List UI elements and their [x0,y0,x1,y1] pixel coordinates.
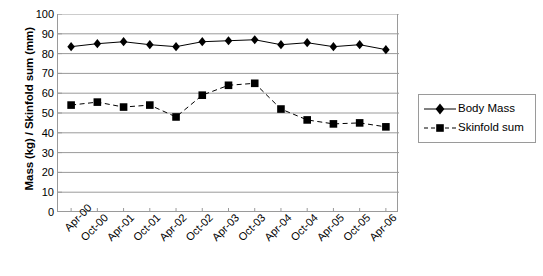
data-point-marker [303,116,311,124]
y-tick-label: 70 [24,68,54,79]
legend-label-body-mass: Body Mass [458,103,515,115]
data-point-marker [277,105,285,113]
data-point-marker [198,91,206,99]
data-point-marker [94,98,102,106]
data-point-marker [356,119,364,127]
data-point-marker [172,42,180,51]
data-point-marker [382,123,390,131]
plot-svg [58,14,399,212]
data-point-marker [120,37,128,46]
data-point-marker [146,40,154,49]
data-point-marker [198,37,206,46]
data-point-marker [120,103,128,111]
y-tick-label: 50 [24,108,54,119]
series-line-2 [71,83,386,127]
legend-key-solid-diamond-icon [422,101,458,117]
y-tick-label: 0 [24,207,54,218]
data-point-marker [225,81,233,89]
y-tick-label: 10 [24,187,54,198]
legend-item-skinfold-sum: Skinfold sum [422,118,532,137]
data-point-marker [277,40,285,49]
data-point-marker [67,42,75,51]
data-point-marker [172,113,180,121]
chart-container: Mass (kg) / Skinfold sum (mm) 1009080706… [0,0,543,276]
data-point-marker [94,39,102,48]
data-point-marker [303,38,311,47]
y-tick-label: 20 [24,167,54,178]
y-axis-tick-labels: 1009080706050403020100 [22,0,54,276]
y-tick-label: 100 [24,9,54,20]
y-tick-label: 90 [24,28,54,39]
x-axis-tick-labels: Apr-00Oct-00Apr-01Oct-01Apr-02Oct-02Apr-… [57,212,398,276]
data-point-marker [67,101,75,109]
y-tick-label: 80 [24,48,54,59]
y-tick-label: 60 [24,88,54,99]
data-point-marker [382,45,390,54]
data-point-marker [330,120,338,128]
data-point-marker [356,40,364,49]
x-tick-label: Apr-00 [63,212,84,233]
data-point-marker [146,101,154,109]
legend-label-skinfold-sum: Skinfold sum [458,122,524,134]
legend-key-dashed-square-icon [422,120,458,136]
chart-legend: Body Mass Skinfold sum [418,94,536,143]
data-point-marker [251,35,259,44]
y-tick-label: 30 [24,147,54,158]
legend-item-body-mass: Body Mass [422,99,532,118]
data-point-marker [251,80,259,88]
data-point-marker [225,36,233,45]
y-tick-label: 40 [24,127,54,138]
plot-area [57,14,398,212]
data-point-marker [330,42,338,51]
